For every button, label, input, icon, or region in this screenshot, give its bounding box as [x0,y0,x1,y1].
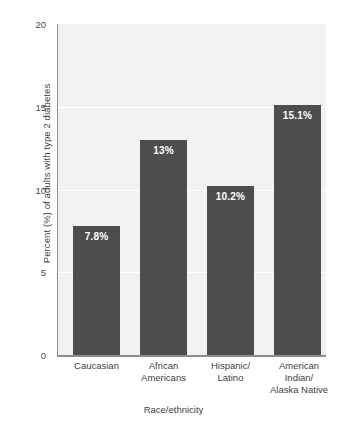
x-label-line: Indian/ [261,372,337,384]
x-label-line: Alaska Native [261,384,337,396]
bar-chart: Percent (%) of adults with type 2 diabet… [0,0,347,424]
y-tick-label-15: 15 [35,101,46,112]
bar-caucasian[interactable]: 7.8% [73,226,120,355]
x-label-hispanic-latino: Hispanic/ Latino [196,360,265,384]
x-axis-title: Race/ethnicity [0,404,347,415]
bar-american-indian-alaska-native[interactable]: 15.1% [274,105,321,355]
bar-value-label: 15.1% [274,110,321,121]
x-label-line: African [129,360,198,372]
bar-value-label: 7.8% [73,231,120,242]
y-tick-label-0: 0 [41,350,46,361]
x-label-line: American [261,360,337,372]
y-tick-label-20: 20 [35,19,46,30]
bar-value-label: 13% [140,145,187,156]
bars-layer: 7.8% 13% 10.2% 15.1% [57,24,325,355]
x-label-line: Caucasian [62,360,131,372]
x-label-line: Hispanic/ [196,360,265,372]
y-tick-label-5: 5 [41,267,46,278]
y-axis-ticks: 20 15 10 5 0 [0,0,52,424]
x-label-line: Americans [129,372,198,384]
x-label-african-americans: African Americans [129,360,198,384]
bar-value-label: 10.2% [207,191,254,202]
x-label-caucasian: Caucasian [62,360,131,372]
x-axis-category-labels: Caucasian African Americans Hispanic/ La… [57,360,325,410]
y-tick-label-10: 10 [35,184,46,195]
x-axis-line [57,355,326,357]
bar-african-americans[interactable]: 13% [140,140,187,355]
bar-hispanic-latino[interactable]: 10.2% [207,186,254,355]
x-label-line: Latino [196,372,265,384]
x-label-american-indian-alaska-native: American Indian/ Alaska Native [261,360,337,396]
